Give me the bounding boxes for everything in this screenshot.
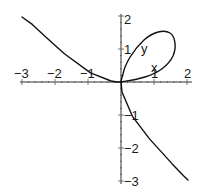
x-tick-label: −2 (47, 66, 62, 81)
y-tick-label: 1 (124, 42, 131, 57)
x-tick-label: −3 (14, 66, 29, 81)
folium-plot: −3 −2 −1 1 2 2 1 −1 −2 −3 y x (0, 0, 203, 192)
curve-lower-right-branch (121, 82, 188, 180)
x-tick-label: 2 (184, 66, 191, 81)
annotation-y: y (141, 41, 148, 56)
y-tick-label: −2 (124, 141, 139, 156)
y-tick-label: 2 (124, 12, 131, 27)
y-tick-label: −3 (124, 174, 139, 189)
curve-upper-left-branch (22, 17, 121, 82)
